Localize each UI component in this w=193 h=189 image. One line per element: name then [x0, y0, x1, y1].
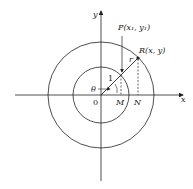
point-m-label: M	[115, 98, 125, 107]
point-r-label: R(x, y)	[138, 46, 165, 55]
unit-circle-diagram: y x P(x₁, y₁) R(x, y) r 1 θ 0 M N	[0, 0, 193, 189]
x-axis-label: x	[181, 95, 186, 104]
point-p-label: P(x₁, y₁)	[117, 23, 150, 32]
unit-radius-label: 1	[108, 74, 113, 83]
y-axis-label: y	[92, 10, 98, 19]
origin-label: 0	[93, 98, 98, 107]
angle-arc	[115, 84, 117, 93]
point-n-label: N	[133, 98, 142, 107]
theta-label: θ	[91, 85, 96, 94]
